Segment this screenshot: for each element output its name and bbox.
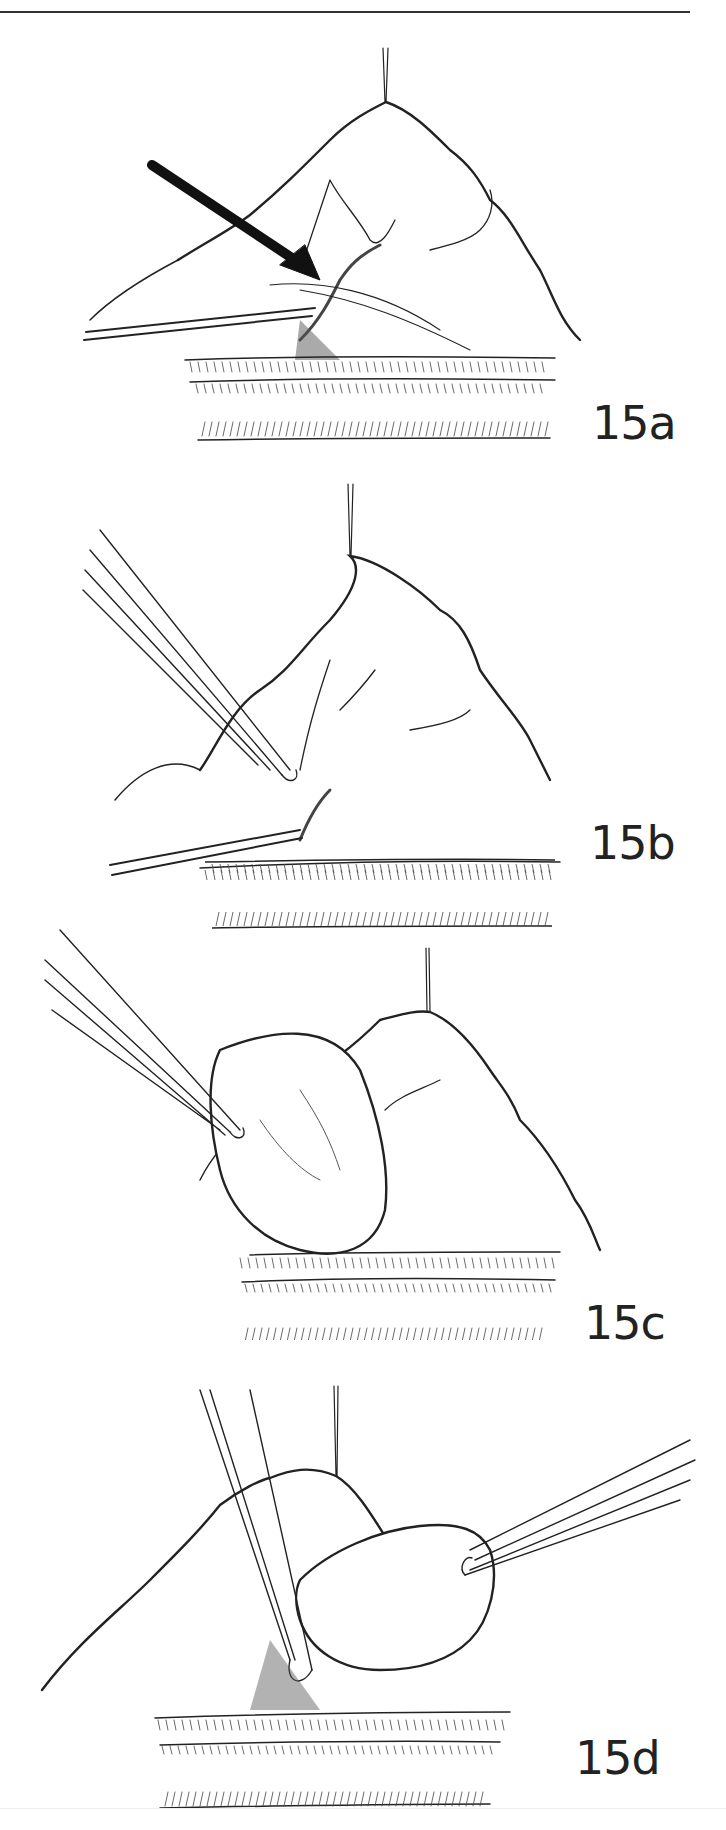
figure-label-15a: 15a	[592, 400, 676, 446]
figure-15b: 15b	[0, 470, 726, 900]
figure-15c: 15c	[0, 920, 726, 1340]
figure-label-15c: 15c	[584, 1300, 665, 1346]
figure-15d: 15d	[0, 1380, 726, 1810]
figure-15a: 15a	[0, 40, 726, 460]
footer-rule	[0, 1808, 726, 1809]
figure-label-15d: 15d	[575, 1735, 660, 1781]
illustration-15c	[0, 920, 726, 1340]
header-rule	[0, 11, 690, 13]
